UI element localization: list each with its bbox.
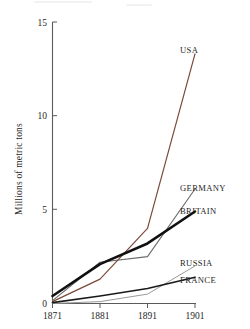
x-tick-label-1901: 1901 <box>186 311 205 321</box>
x-tick-label-1871: 1871 <box>43 311 62 321</box>
series-label-russia: RUSSIA <box>180 258 213 268</box>
series-line-russia <box>53 266 196 304</box>
chart-canvas: 15 10 5 0 1871 1881 1891 1901 Millions o… <box>0 0 250 329</box>
y-axis-title: Millions of metric tons <box>14 123 24 215</box>
x-tick-label-1881: 1881 <box>91 311 110 321</box>
steel-production-line-chart: 15 10 5 0 1871 1881 1891 1901 Millions o… <box>0 0 250 329</box>
y-tick-label-15: 15 <box>38 18 48 28</box>
y-tick-label-5: 5 <box>42 205 47 215</box>
x-tick-label-1891: 1891 <box>138 311 157 321</box>
series-label-britain: BRITAIN <box>180 206 217 216</box>
series-line-germany <box>53 189 196 301</box>
series-label-usa: USA <box>180 45 199 55</box>
y-tick-label-10: 10 <box>38 111 48 121</box>
series-line-usa <box>53 54 196 302</box>
series-label-germany: GERMANY <box>180 183 226 193</box>
series-label-france: FRANCE <box>180 275 216 285</box>
y-tick-label-0: 0 <box>42 299 47 309</box>
